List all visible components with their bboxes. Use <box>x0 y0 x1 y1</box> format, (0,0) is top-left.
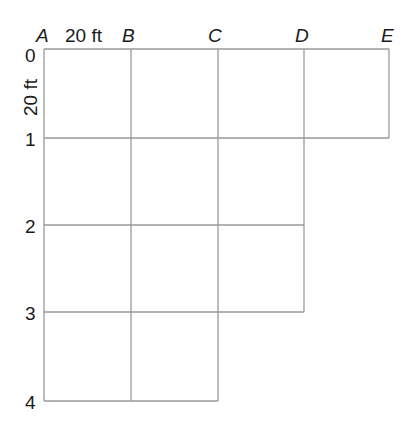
vertical-scale-label: 20 ft <box>20 78 41 116</box>
survey-grid-diagram: A 20 ft B C D E 0 1 2 3 4 20 ft <box>0 0 412 434</box>
horizontal-scale-label: 20 ft <box>65 25 103 46</box>
column-label-e: E <box>381 25 394 46</box>
row-label-1: 1 <box>25 129 36 150</box>
row-label-4: 4 <box>25 392 36 413</box>
column-label-b: B <box>122 25 135 46</box>
column-label-d: D <box>295 25 309 46</box>
row-label-0: 0 <box>25 45 36 66</box>
row-label-2: 2 <box>25 216 36 237</box>
grid-lines <box>44 49 389 401</box>
column-label-a: A <box>35 25 49 46</box>
column-label-c: C <box>208 25 222 46</box>
row-label-3: 3 <box>25 303 36 324</box>
